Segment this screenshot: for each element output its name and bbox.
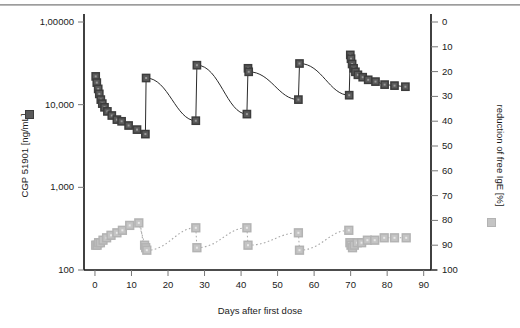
data-point-center bbox=[374, 239, 376, 241]
data-point-center bbox=[297, 232, 299, 234]
data-point-center bbox=[129, 224, 131, 226]
series-riser-cgp-51901 bbox=[196, 65, 197, 121]
data-point-center bbox=[394, 237, 396, 239]
data-point-center bbox=[299, 63, 301, 65]
data-point-center bbox=[116, 232, 118, 234]
data-point-center bbox=[394, 85, 396, 87]
series-riser-cgp-51901 bbox=[298, 64, 299, 100]
data-point-center bbox=[144, 133, 146, 135]
series-line-ige-reduction bbox=[197, 228, 247, 248]
plot-area bbox=[0, 0, 520, 328]
data-point-center bbox=[138, 222, 140, 224]
figure-canvas: CGP 51901 [ng/mL] reduction of free IgE … bbox=[0, 0, 520, 328]
data-point-center bbox=[196, 64, 198, 66]
data-point-center bbox=[247, 244, 249, 246]
series-line-cgp-51901 bbox=[300, 64, 350, 96]
data-point-center bbox=[111, 115, 113, 117]
data-point-center bbox=[121, 229, 123, 231]
data-point-center bbox=[384, 84, 386, 86]
series-line-ige-reduction bbox=[248, 233, 298, 245]
data-point-center bbox=[146, 249, 148, 251]
data-point-center bbox=[297, 99, 299, 101]
data-point-center bbox=[195, 120, 197, 122]
data-point-center bbox=[136, 129, 138, 131]
data-point-center bbox=[367, 79, 369, 81]
series-line-ige-reduction bbox=[147, 228, 196, 250]
data-point-center bbox=[195, 227, 197, 229]
data-point-center bbox=[348, 94, 350, 96]
series-line-cgp-51901 bbox=[146, 78, 196, 121]
data-point-center bbox=[366, 239, 368, 241]
data-point-center bbox=[246, 113, 248, 115]
data-point-center bbox=[128, 125, 130, 127]
data-point-center bbox=[121, 120, 123, 122]
data-point-center bbox=[404, 86, 406, 88]
series-line-cgp-51901 bbox=[197, 65, 247, 114]
data-point-center bbox=[246, 227, 248, 229]
data-point-center bbox=[96, 82, 98, 84]
data-point-center bbox=[375, 81, 377, 83]
data-point-center bbox=[110, 234, 112, 236]
data-point-center bbox=[383, 237, 385, 239]
series-line-cgp-51901 bbox=[248, 68, 298, 99]
series-line-ige-reduction bbox=[300, 230, 349, 250]
series-riser-cgp-51901 bbox=[145, 78, 146, 134]
data-point-center bbox=[196, 247, 198, 249]
data-point-center bbox=[299, 249, 301, 251]
data-point-center bbox=[95, 75, 97, 77]
data-point-center bbox=[362, 76, 364, 78]
data-point-center bbox=[361, 242, 363, 244]
data-point-center bbox=[350, 58, 352, 60]
data-point-center bbox=[248, 71, 250, 73]
data-point-center bbox=[98, 93, 100, 95]
data-point-center bbox=[348, 229, 350, 231]
data-point-center bbox=[405, 237, 407, 239]
data-point-center bbox=[145, 77, 147, 79]
